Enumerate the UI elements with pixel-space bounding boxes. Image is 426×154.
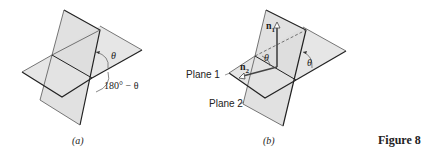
normal-label-n2: n2 <box>240 62 249 75</box>
plane-1-label: Plane 1 <box>186 70 220 80</box>
figure-caption: Figure 8 <box>378 134 421 146</box>
panel-a-drawing <box>22 10 142 125</box>
panel-label-a: (a) <box>72 136 84 146</box>
plane-2-label: Plane 2 <box>209 99 243 109</box>
n2-subscript: 2 <box>246 67 250 75</box>
normal-label-n1: n1 <box>266 21 275 34</box>
n1-subscript: 1 <box>272 26 276 34</box>
angle-label-theta-planes: θ <box>307 58 312 68</box>
angle-label-theta-normals: θ <box>264 53 269 63</box>
panel-label-b: (b) <box>263 136 275 146</box>
angle-label-theta-a: θ <box>111 51 116 61</box>
angle-label-supplement-a: 180° − θ <box>104 81 138 91</box>
